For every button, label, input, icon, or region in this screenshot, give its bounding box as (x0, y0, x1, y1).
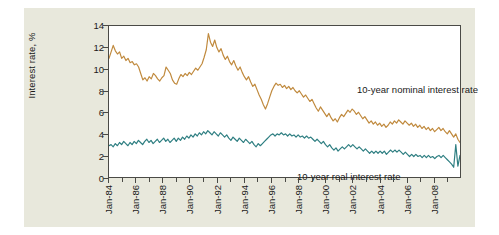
y-axis-tick-labels: 02468101214 (74, 25, 104, 178)
x-axis-tick-label: Jan-94 (238, 185, 249, 214)
x-axis-tick-mark (407, 178, 408, 183)
x-axis-minor-tick-mark (203, 178, 204, 182)
x-axis-minor-tick-mark (149, 178, 150, 182)
x-axis-tick-mark (380, 178, 381, 183)
line-real-interest-rate (109, 131, 460, 168)
series-canvas (109, 26, 460, 177)
x-axis-tick-label: Jan-98 (293, 185, 304, 214)
x-axis-tick-mark (325, 178, 326, 183)
x-axis-minor-tick-mark (339, 178, 340, 182)
x-axis-minor-tick-mark (257, 178, 258, 182)
x-axis-minor-tick-mark (366, 178, 367, 182)
x-axis-minor-tick-mark (176, 178, 177, 182)
x-axis-minor-tick-mark (230, 178, 231, 182)
chart-figure: Interest rate, % 02468101214 10-year nom… (0, 0, 499, 235)
x-axis-minor-tick-mark (420, 178, 421, 182)
x-axis-tick-mark (298, 178, 299, 183)
x-axis-minor-tick-mark (447, 178, 448, 182)
x-axis-tick-label: Jan-08 (428, 185, 439, 214)
x-axis-tick-mark (434, 178, 435, 183)
x-axis-tick-mark (135, 178, 136, 183)
y-axis-tick-label: 10 (78, 63, 104, 74)
y-axis-title: Interest rate, % (26, 1, 37, 131)
y-axis-tick-label: 12 (78, 41, 104, 52)
x-axis-minor-tick-mark (122, 178, 123, 182)
plot-area: 10-year nominal interest rate 10-year re… (108, 25, 461, 178)
x-axis-tick-label: Jan-86 (130, 185, 141, 214)
y-axis-tick-label: 0 (78, 173, 104, 184)
x-axis-tick-mark (189, 178, 190, 183)
y-axis-tick-label: 4 (78, 129, 104, 140)
y-axis-tick-label: 6 (78, 107, 104, 118)
x-axis-tick-labels: Jan-84Jan-86Jan-88Jan-90Jan-92Jan-94Jan-… (108, 178, 461, 235)
x-axis-tick-mark (108, 178, 109, 183)
x-axis-tick-label: Jan-06 (401, 185, 412, 214)
x-axis-tick-mark (352, 178, 353, 183)
x-axis-tick-label: Jan-00 (320, 185, 331, 214)
annotation-nominal-series: 10-year nominal interest rate (357, 84, 478, 95)
x-axis-minor-tick-mark (285, 178, 286, 182)
x-axis-tick-label: Jan-92 (211, 185, 222, 214)
x-axis-tick-mark (244, 178, 245, 183)
y-axis-tick-label: 14 (78, 20, 104, 31)
x-axis-tick-label: Jan-88 (157, 185, 168, 214)
y-axis-tick-label: 2 (78, 151, 104, 162)
x-axis-minor-tick-mark (393, 178, 394, 182)
x-axis-tick-label: Jan-90 (184, 185, 195, 214)
x-axis-tick-mark (162, 178, 163, 183)
x-axis-minor-tick-mark (312, 178, 313, 182)
x-axis-tick-mark (271, 178, 272, 183)
x-axis-tick-label: Jan-84 (103, 185, 114, 214)
x-axis-tick-mark (217, 178, 218, 183)
x-axis-tick-label: Jan-04 (374, 185, 385, 214)
x-axis-tick-label: Jan-96 (265, 185, 276, 214)
x-axis-tick-label: Jan-02 (347, 185, 358, 214)
y-axis-tick-label: 8 (78, 85, 104, 96)
